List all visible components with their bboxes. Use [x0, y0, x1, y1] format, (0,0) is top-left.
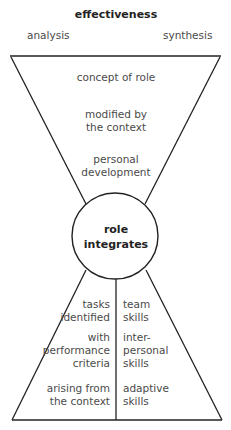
diagram-lines [0, 0, 231, 430]
lower-right-item-team-skills: team skills [123, 298, 150, 324]
lower-left-item-arising-from-context: arising from the context [47, 382, 110, 408]
center-label: role integrates [84, 222, 148, 252]
upper-item-concept-of-role: concept of role [77, 71, 156, 84]
lower-right-item-interpersonal-skills: inter- personal skills [123, 331, 168, 370]
analysis-label: analysis [27, 29, 70, 42]
upper-right-edge [145, 57, 220, 204]
lower-right-item-adaptive-skills: adaptive skills [123, 382, 169, 408]
diagram-title: effectiveness [75, 8, 157, 21]
synthesis-label: synthesis [163, 29, 212, 42]
upper-left-edge [11, 57, 86, 204]
lower-left-item-performance-criteria: with performance criteria [43, 331, 110, 370]
upper-item-personal-development: personal development [81, 153, 150, 179]
lower-left-item-tasks-identified: tasks identified [61, 298, 110, 324]
upper-item-modified-by-context: modified by the context [85, 108, 147, 134]
